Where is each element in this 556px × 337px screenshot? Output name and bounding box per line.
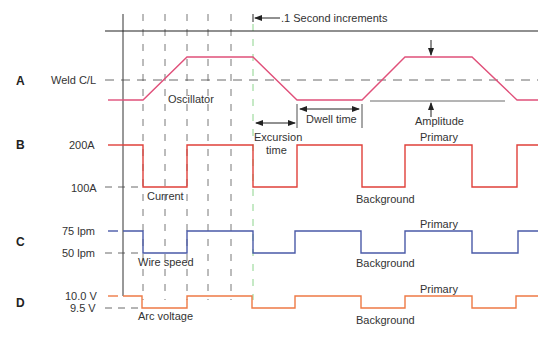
d-low-label: 9.5 V bbox=[70, 302, 96, 314]
amplitude-label: Amplitude bbox=[415, 115, 464, 127]
row-letter-d: D bbox=[16, 296, 25, 310]
row-letter-c: C bbox=[16, 235, 25, 249]
excursion-label: Excursion bbox=[254, 131, 302, 143]
primary-label-d: Primary bbox=[420, 283, 458, 295]
wire-speed-label: Wire speed bbox=[138, 256, 194, 268]
c-high-label: 75 lpm bbox=[62, 225, 95, 237]
primary-label-c: Primary bbox=[420, 218, 458, 230]
row-letter-a: A bbox=[16, 74, 25, 88]
waveform-d bbox=[123, 296, 538, 308]
b-high-label: 200A bbox=[69, 139, 95, 151]
excursion-time-label: time bbox=[266, 144, 287, 156]
waveform-c bbox=[123, 231, 538, 253]
increment-label: .1 Second increments bbox=[281, 12, 388, 24]
background-label-c: Background bbox=[356, 257, 415, 269]
d-high-label: 10.0 V bbox=[65, 290, 97, 302]
c-low-label: 50 lpm bbox=[62, 247, 95, 259]
current-label: Current bbox=[147, 190, 184, 202]
background-label-b: Background bbox=[356, 193, 415, 205]
timing-diagram: .1 Second increments A B C D Weld C/L 20… bbox=[0, 0, 556, 337]
dwell-time-label: Dwell time bbox=[306, 113, 357, 125]
background-label-d: Background bbox=[356, 314, 415, 326]
row-letter-b: B bbox=[16, 138, 25, 152]
b-low-label: 100A bbox=[71, 182, 97, 194]
arc-voltage-label: Arc voltage bbox=[138, 310, 193, 322]
oscillator-label: Oscillator bbox=[168, 93, 214, 105]
primary-label-b: Primary bbox=[420, 131, 458, 143]
weld-cl-label: Weld C/L bbox=[51, 74, 96, 86]
waveform-b bbox=[123, 145, 538, 187]
